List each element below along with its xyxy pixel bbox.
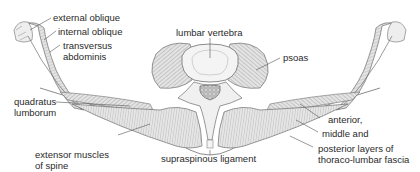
label-fascia-middle: middle and [322,128,368,139]
label-external-oblique: external oblique [53,12,120,23]
label-supraspinous-ligament: supraspinous ligament [161,153,256,164]
left-extensor-muscles [72,104,202,148]
supraspinous-ligament [207,140,213,148]
label-internal-oblique: internal oblique [58,26,122,37]
label-transversus-abdominis: transversus abdominis [63,40,112,62]
label-fascia-posterior: posterior layers of thoraco-lumbar fasci… [318,143,409,165]
label-lumbar-vertebra: lumbar vertebra [176,27,243,38]
label-psoas: psoas [283,52,308,63]
label-quadratus-lumborum: quadratus lumborum [14,96,56,118]
label-extensor-muscles: extensor muscles of spine [35,149,109,171]
label-fascia-anterior: anterior, [328,114,362,125]
right-extensor-muscles [218,104,348,148]
